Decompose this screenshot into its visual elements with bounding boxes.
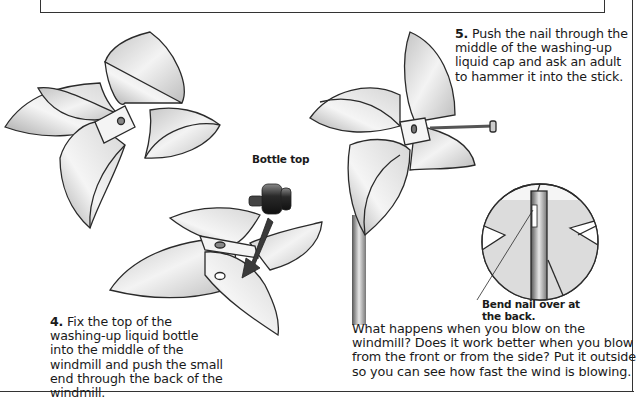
question-paragraph: What happens when you blow on the windmi… [352,322,638,379]
instruction-page: 5. Push the nail through the middle of t… [0,0,638,400]
step-4-number: 4. [50,314,63,329]
step-5-instruction: 5. Push the nail through the middle of t… [455,27,635,84]
bottle-top-label: Bottle top [252,153,309,165]
bottle-top-cap [249,184,291,214]
bend-nail-label: Bend nail over at the back. [482,298,582,322]
step-5-text: Push the nail through the middle of the … [455,26,628,84]
step-4-instruction: 4. Fix the top of the washing-up liquid … [50,315,225,400]
magnified-detail [477,184,598,301]
step-4-text: Fix the top of the washing-up liquid bot… [50,314,223,400]
step-5-number: 5. [455,26,468,41]
windmill-front-view [5,32,220,228]
